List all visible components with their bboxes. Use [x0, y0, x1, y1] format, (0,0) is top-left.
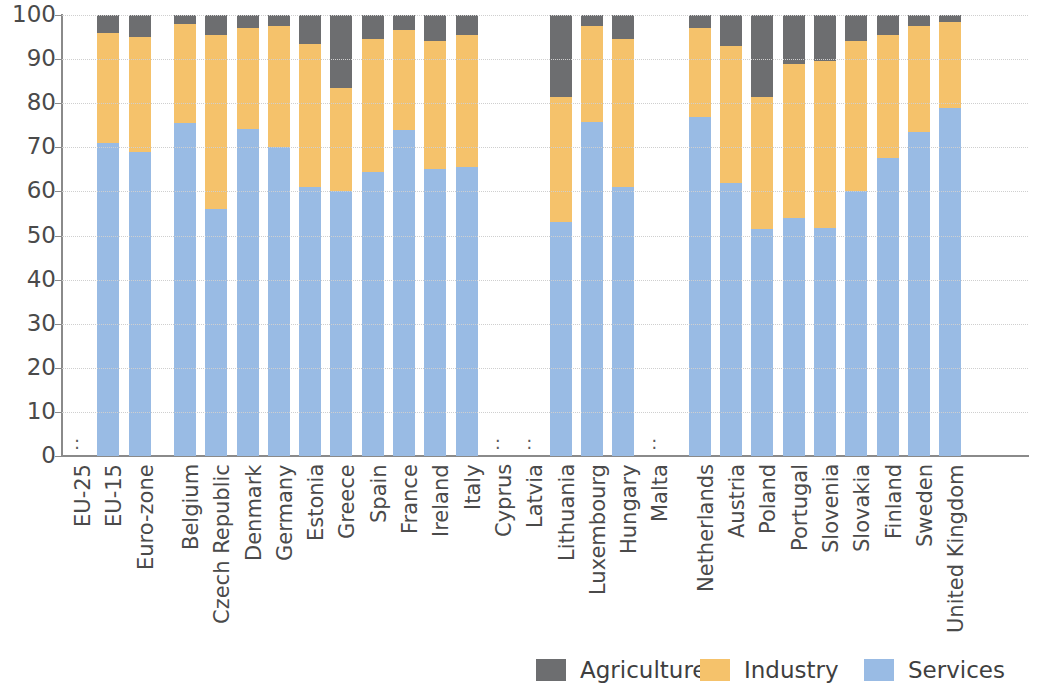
bar-segment-services[interactable] — [129, 152, 151, 456]
bar-segment-industry[interactable] — [205, 35, 227, 209]
bar-segment-industry[interactable] — [908, 26, 930, 132]
y-tick-label: 10 — [4, 400, 56, 423]
legend-item-services[interactable]: Services — [864, 655, 1005, 685]
x-label-text: Hungary — [619, 464, 640, 554]
bar-segment-agriculture[interactable] — [814, 15, 836, 61]
bar-segment-services[interactable] — [362, 172, 384, 456]
gridline — [62, 368, 1028, 369]
bar-segment-industry[interactable] — [550, 97, 572, 223]
legend-swatch-industry — [700, 659, 730, 681]
bar-segment-agriculture[interactable] — [877, 15, 899, 35]
bar-segment-industry[interactable] — [581, 26, 603, 122]
gridline — [62, 103, 1028, 104]
bar-segment-agriculture[interactable] — [268, 15, 290, 26]
bar-segment-agriculture[interactable] — [97, 15, 119, 33]
x-label-text: Lithuania — [557, 464, 578, 561]
legend-label-industry: Industry — [744, 659, 839, 682]
bar-segment-agriculture[interactable] — [362, 15, 384, 39]
bar-segment-industry[interactable] — [845, 41, 867, 191]
bar-segment-agriculture[interactable] — [424, 15, 446, 41]
x-label-text: Finland — [884, 464, 905, 539]
bar-segment-agriculture[interactable] — [330, 15, 352, 88]
bar-segment-industry[interactable] — [877, 35, 899, 158]
bar-segment-industry[interactable] — [97, 33, 119, 143]
bar-segment-agriculture[interactable] — [689, 15, 711, 28]
bar-segment-services[interactable] — [268, 147, 290, 456]
legend-swatch-services — [864, 659, 894, 681]
bar-segment-agriculture[interactable] — [237, 15, 259, 28]
x-label-text: Malta — [650, 464, 671, 522]
bar-segment-industry[interactable] — [129, 37, 151, 152]
bar-segment-industry[interactable] — [751, 97, 773, 229]
bar-segment-agriculture[interactable] — [612, 15, 634, 39]
bar-segment-industry[interactable] — [424, 41, 446, 169]
bar-segment-agriculture[interactable] — [129, 15, 151, 37]
bar-segment-industry[interactable] — [612, 39, 634, 187]
bar-segment-services[interactable] — [424, 169, 446, 456]
bar-segment-agriculture[interactable] — [174, 15, 196, 24]
bar-segment-services[interactable] — [814, 228, 836, 456]
stacked-bar-chart: 0102030405060708090100 :::: EU-25EU-15Eu… — [0, 0, 1038, 690]
bar-segment-agriculture[interactable] — [751, 15, 773, 97]
x-label-text: Italy — [463, 464, 484, 510]
legend-item-industry[interactable]: Industry — [700, 655, 839, 685]
bar-segment-industry[interactable] — [393, 30, 415, 129]
bar-segment-agriculture[interactable] — [939, 15, 961, 22]
bar-segment-services[interactable] — [299, 187, 321, 456]
x-label-text: Estonia — [306, 464, 327, 541]
bar-segment-industry[interactable] — [237, 28, 259, 129]
bar-segment-industry[interactable] — [174, 24, 196, 123]
bar-segment-agriculture[interactable] — [393, 15, 415, 30]
bar-segment-agriculture[interactable] — [550, 15, 572, 97]
bar-segment-agriculture[interactable] — [720, 15, 742, 46]
bar-segment-services[interactable] — [393, 130, 415, 456]
bar-segment-industry[interactable] — [783, 64, 805, 218]
x-label-text: Belgium — [181, 464, 202, 550]
bar-segment-services[interactable] — [908, 132, 930, 456]
bar-segment-industry[interactable] — [720, 46, 742, 183]
no-data-marker: : — [643, 438, 665, 448]
y-axis-tick-labels: 0102030405060708090100 — [0, 0, 56, 470]
y-tick-label: 70 — [4, 135, 56, 158]
y-tick-label: 0 — [4, 444, 56, 467]
x-label-text: Poland — [758, 464, 779, 534]
legend-label-agriculture: Agriculture — [580, 659, 707, 682]
legend-item-agriculture[interactable]: Agriculture — [536, 655, 707, 685]
bar-segment-agriculture[interactable] — [908, 15, 930, 26]
bar-segment-industry[interactable] — [814, 61, 836, 228]
y-tick-label: 100 — [4, 3, 56, 26]
x-label-text: Euro-zone — [136, 464, 157, 570]
bar-segment-agriculture[interactable] — [783, 15, 805, 64]
bar-segment-services[interactable] — [174, 123, 196, 456]
bar-segment-services[interactable] — [689, 117, 711, 456]
gridline — [62, 324, 1028, 325]
x-label-text: Denmark — [244, 464, 265, 561]
y-tick-label: 50 — [4, 224, 56, 247]
no-data-marker: : — [66, 438, 88, 448]
x-label-text: Sweden — [915, 464, 936, 547]
bar-segment-services[interactable] — [97, 143, 119, 456]
bar-segment-services[interactable] — [939, 108, 961, 456]
bar-segment-services[interactable] — [205, 209, 227, 456]
x-label-text: Greece — [337, 464, 358, 539]
bar-segment-agriculture[interactable] — [581, 15, 603, 26]
bar-segment-services[interactable] — [550, 222, 572, 456]
y-axis-tick — [55, 456, 63, 457]
bar-segment-industry[interactable] — [299, 44, 321, 187]
bar-segment-services[interactable] — [581, 122, 603, 456]
bar-segment-services[interactable] — [720, 183, 742, 456]
bar-segment-agriculture[interactable] — [845, 15, 867, 41]
bar-segment-industry[interactable] — [939, 22, 961, 108]
bar-segment-agriculture[interactable] — [205, 15, 227, 35]
x-label-text: Luxembourg — [588, 464, 609, 595]
x-label-text: Austria — [727, 464, 748, 538]
bar-segment-services[interactable] — [783, 218, 805, 456]
bar-segment-industry[interactable] — [268, 26, 290, 147]
bar-segment-services[interactable] — [751, 229, 773, 456]
bar-segment-services[interactable] — [612, 187, 634, 456]
bar-segment-agriculture[interactable] — [299, 15, 321, 44]
legend-swatch-agriculture — [536, 659, 566, 681]
chart-legend: AgricultureIndustryServices — [0, 655, 1038, 690]
bar-segment-services[interactable] — [237, 129, 259, 456]
bar-segment-agriculture[interactable] — [456, 15, 478, 35]
